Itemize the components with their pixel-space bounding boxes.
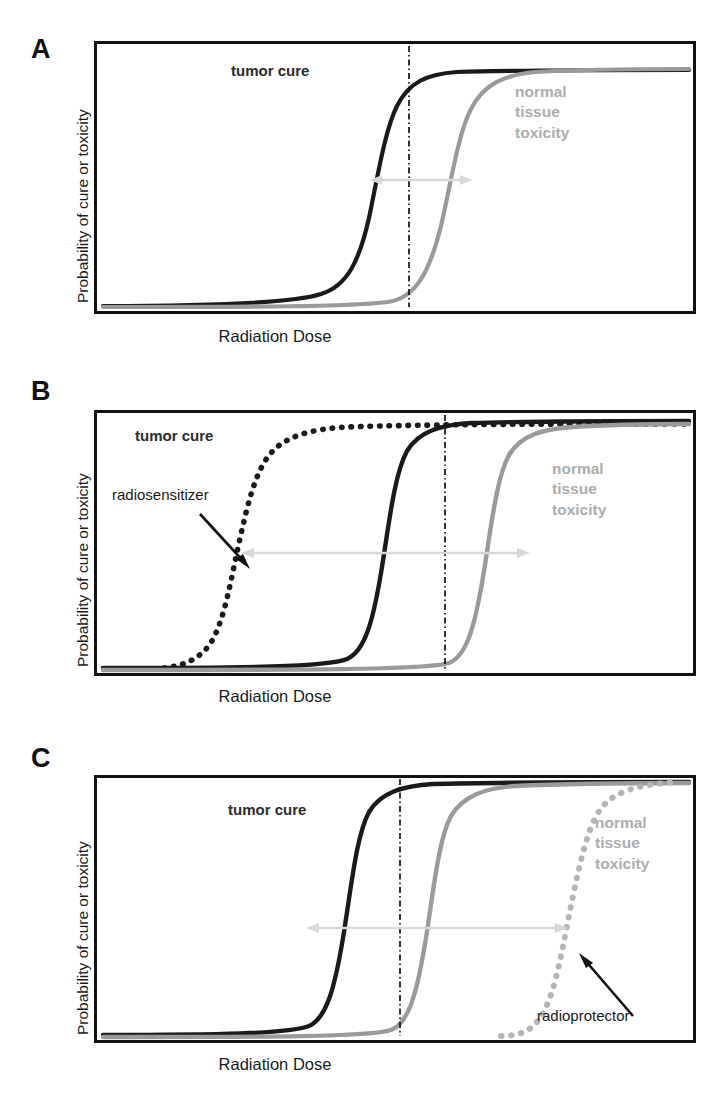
y-axis-label-c: Probability of cure or toxicity <box>74 841 92 1035</box>
x-axis-label-a: Radiation Dose <box>95 327 455 346</box>
panel-b: B Probability of cure or toxicity tu <box>0 365 720 727</box>
label-normal-tissue-toxicity-a: normal tissue toxicity <box>515 82 569 143</box>
label-tumor-cure-c: tumor cure <box>228 800 306 820</box>
panel-letter-b: B <box>31 378 51 405</box>
panel-c: C Probability of cure or toxicity tu <box>0 727 720 1095</box>
panel-a: A Probability of cure or toxicity tumor … <box>0 0 720 365</box>
plot-frame-c: tumor cure normal tissue toxicity radiop… <box>94 775 696 1043</box>
plot-svg-b <box>97 413 693 673</box>
label-radioprotector-c: radioprotector <box>537 1006 630 1026</box>
x-axis-label-c: Radiation Dose <box>95 1055 455 1074</box>
panel-letter-a: A <box>31 36 51 63</box>
curve-radioprotector-c <box>501 782 677 1036</box>
y-axis-label-b: Probability of cure or toxicity <box>74 473 92 667</box>
therapeutic-window-arrow-a <box>370 175 472 185</box>
x-axis-label-b: Radiation Dose <box>95 687 455 706</box>
label-tumor-cure-b: tumor cure <box>135 426 213 446</box>
label-normal-tissue-toxicity-c: normal tissue toxicity <box>595 813 649 874</box>
curve-radiosensitizer-b <box>145 424 689 669</box>
plot-svg-a <box>97 44 693 311</box>
plot-frame-b: tumor cure radiosensitizer normal tissue… <box>94 410 696 676</box>
label-radiosensitizer-b: radiosensitizer <box>112 485 209 505</box>
curve-tumor-cure-a <box>103 70 689 306</box>
panel-letter-c: C <box>31 745 51 772</box>
y-axis-label-a: Probability of cure or toxicity <box>74 109 92 303</box>
plot-frame-a: tumor cure normal tissue toxicity <box>94 41 696 314</box>
label-normal-tissue-toxicity-b: normal tissue toxicity <box>552 459 606 520</box>
label-tumor-cure-a: tumor cure <box>231 61 309 81</box>
